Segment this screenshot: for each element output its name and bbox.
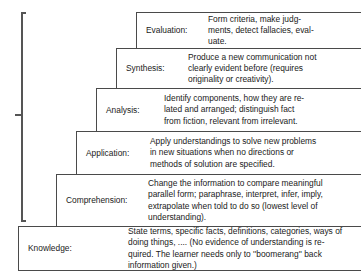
taxonomy-level-analysis: Analysis: Identify components, how they … (96, 88, 361, 131)
level-label-analysis: Analysis: (97, 106, 164, 115)
grouping-brace-bottom-cap (21, 220, 26, 222)
level-description-analysis: Identify components, how they are re- la… (164, 93, 361, 127)
level-label-evaluation: Evaluation: (137, 26, 208, 35)
taxonomy-level-synthesis: Synthesis: Produce a new communication n… (116, 48, 361, 88)
level-label-comprehension: Comprehension: (57, 196, 148, 205)
level-description-application: Apply understandings to solve new proble… (150, 136, 361, 170)
level-description-evaluation: Form criteria, make judg- ments, detect … (208, 14, 361, 48)
level-label-knowledge: Knowledge: (19, 244, 128, 253)
level-label-application: Application: (77, 149, 150, 158)
taxonomy-level-comprehension: Comprehension: Change the information to… (56, 174, 361, 226)
level-description-knowledge: State terms, specific facts, definitions… (128, 226, 361, 271)
grouping-brace-top-cap (21, 12, 26, 14)
level-description-comprehension: Change the information to compare meanin… (148, 178, 361, 223)
taxonomy-level-evaluation: Evaluation: Form criteria, make judg- me… (136, 12, 361, 48)
grouping-brace (21, 12, 23, 222)
level-description-synthesis: Produce a new communication not clearly … (188, 52, 361, 86)
taxonomy-level-knowledge: Knowledge: State terms, specific facts, … (18, 226, 361, 271)
level-label-synthesis: Synthesis: (117, 64, 188, 73)
grouping-brace-tick (15, 114, 22, 116)
taxonomy-level-application: Application: Apply understandings to sol… (76, 131, 361, 174)
